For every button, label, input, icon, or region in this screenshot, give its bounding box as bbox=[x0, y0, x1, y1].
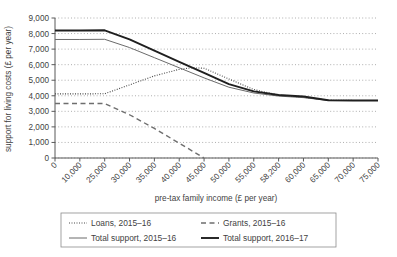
y-tick-label: 1,000 bbox=[29, 138, 50, 147]
y-tick-label: 5,000 bbox=[29, 76, 50, 85]
x-tick-label: 40,000 bbox=[159, 160, 183, 184]
legend-item[interactable]: Total support, 2016–17 bbox=[201, 233, 309, 243]
y-tick-label: 6,000 bbox=[29, 61, 50, 70]
legend-label: Total support, 2015–16 bbox=[91, 233, 177, 243]
y-tick-label: 3,000 bbox=[29, 107, 50, 116]
legend-item[interactable]: Loans, 2015–16 bbox=[69, 218, 151, 228]
x-tick-label: 35,000 bbox=[134, 160, 158, 184]
legend-item[interactable]: Total support, 2015–16 bbox=[69, 233, 177, 243]
x-tick-label: 65,000 bbox=[308, 160, 332, 184]
x-axis bbox=[55, 158, 378, 162]
legend-label: Loans, 2015–16 bbox=[91, 218, 151, 228]
y-tick-label: 8,000 bbox=[29, 30, 50, 39]
x-tick-labels: 010,00025,00030,00035,00040,00045,00050,… bbox=[49, 160, 382, 184]
y-tick-label: 0 bbox=[44, 154, 49, 163]
x-tick-label: 55,000 bbox=[234, 160, 258, 184]
legend-label: Grants, 2015–16 bbox=[223, 218, 286, 228]
line-chart-svg: 01,0002,0003,0004,0005,0006,0007,0008,00… bbox=[0, 0, 397, 257]
y-tick-label: 2,000 bbox=[29, 123, 50, 132]
y-tick-label: 9,000 bbox=[29, 14, 50, 23]
y-axis bbox=[52, 18, 56, 158]
x-tick-label: 60,000 bbox=[283, 160, 307, 184]
x-tick-label: 58,200 bbox=[258, 160, 282, 184]
x-tick-label: 0 bbox=[49, 160, 59, 170]
x-tick-label: 25,000 bbox=[85, 160, 109, 184]
legend-label: Total support, 2016–17 bbox=[223, 233, 309, 243]
x-tick-label: 30,000 bbox=[109, 160, 133, 184]
x-tick-label: 45,000 bbox=[184, 160, 208, 184]
y-tick-labels: 01,0002,0003,0004,0005,0006,0007,0008,00… bbox=[29, 14, 50, 163]
x-tick-label: 50,000 bbox=[209, 160, 233, 184]
y-tick-label: 4,000 bbox=[29, 92, 50, 101]
legend: Loans, 2015–16Grants, 2015–16Total suppo… bbox=[61, 213, 336, 247]
series-line-total-support-2016-17 bbox=[55, 30, 378, 100]
x-tick-label: 75,000 bbox=[358, 160, 382, 184]
chart-figure: 01,0002,0003,0004,0005,0006,0007,0008,00… bbox=[0, 0, 397, 257]
y-axis-title: support for living costs (£ per year) bbox=[4, 26, 13, 152]
x-tick-label: 10,000 bbox=[60, 160, 84, 184]
x-axis-title: pre-tax family income (£ per year) bbox=[155, 194, 278, 203]
x-tick-label: 70,000 bbox=[333, 160, 357, 184]
series-line-total-support-2015-16 bbox=[55, 39, 378, 100]
y-tick-label: 7,000 bbox=[29, 45, 50, 54]
legend-item[interactable]: Grants, 2015–16 bbox=[201, 218, 286, 228]
